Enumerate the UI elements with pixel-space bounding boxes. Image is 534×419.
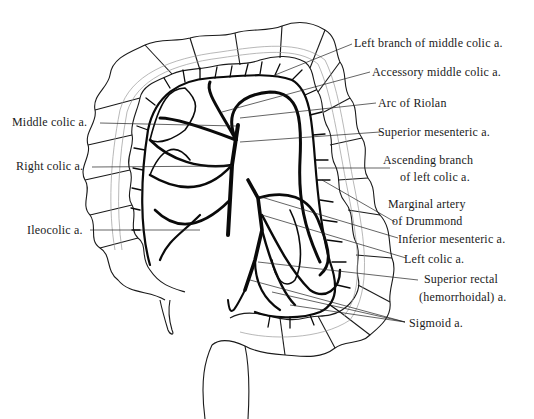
label-left-branch-middle-colic: Left branch of middle colic a. xyxy=(354,36,503,50)
label-sigmoid: Sigmoid a. xyxy=(409,316,463,330)
label-left-colic: Left colic a. xyxy=(404,252,464,266)
label-ascending-branch-left-colic: Ascending branch xyxy=(383,153,473,167)
label-middle-colic: Middle colic a. xyxy=(12,115,87,129)
superior-mesenteric-tree xyxy=(150,82,320,262)
label-superior-rectal-hemorrhoidal: (hemorrhoidal) a. xyxy=(419,290,506,304)
label-accessory-middle-colic: Accessory middle colic a. xyxy=(372,65,501,79)
label-inferior-mesenteric: Inferior mesenteric a. xyxy=(398,232,505,246)
label-marginal-artery: Marginal artery xyxy=(388,197,466,211)
label-superior-mesenteric: Superior mesenteric a. xyxy=(378,125,490,139)
label-ileocolic: Ileocolic a. xyxy=(27,223,83,237)
label-superior-rectal: Superior rectal xyxy=(424,272,498,286)
label-marginal-artery-drummond: of Drummond xyxy=(392,214,463,228)
inferior-mesenteric-tree xyxy=(228,180,340,311)
colon-outline xyxy=(83,23,394,419)
label-ascending-branch-left-colic-cont: of left colic a. xyxy=(400,170,470,184)
anatomy-diagram: Left branch of middle colic a. Accessory… xyxy=(0,0,534,419)
label-arc-of-riolan: Arc of Riolan xyxy=(378,96,447,110)
label-leader-lines xyxy=(90,44,418,322)
label-right-colic: Right colic a. xyxy=(16,159,83,173)
